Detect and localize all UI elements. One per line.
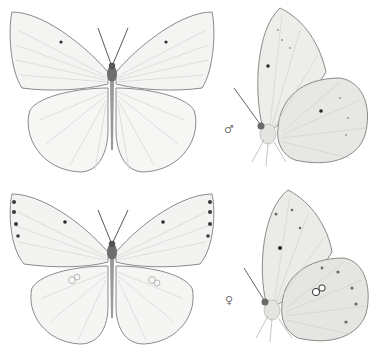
butterfly-male-upperside-illustration [0, 0, 220, 180]
female-symbol: ♀ [225, 295, 233, 306]
male-upperside-figure [0, 0, 220, 180]
male-symbol: ♂ [224, 124, 234, 135]
female-upperside-figure [0, 180, 220, 356]
female-underside-figure [220, 180, 384, 356]
butterfly-female-upperside-illustration [0, 180, 220, 356]
male-underside-figure [220, 0, 384, 180]
butterfly-male-underside-illustration [220, 0, 384, 180]
butterfly-female-underside-illustration [220, 180, 384, 356]
